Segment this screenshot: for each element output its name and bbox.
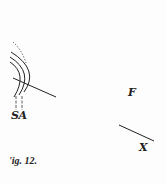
x-line: [119, 125, 154, 141]
label-f: F: [128, 87, 136, 98]
figure-caption: 'ig. 12.: [9, 155, 37, 166]
arc-outer: [11, 52, 30, 92]
arc-inner: [10, 62, 20, 97]
label-x: X: [139, 142, 148, 153]
label-sa: SA: [11, 110, 26, 121]
dotted-arc: [13, 42, 26, 63]
figure-canvas: SA F X 'ig. 12.: [0, 0, 166, 184]
